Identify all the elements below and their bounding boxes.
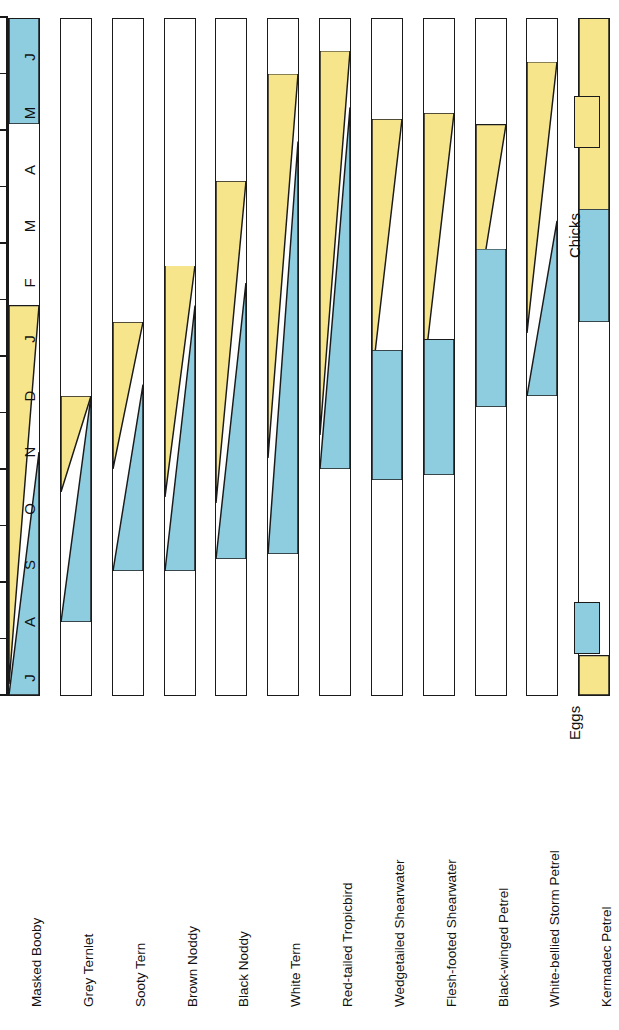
species-label: Brown Noddy — [185, 926, 200, 1007]
month-tick — [0, 638, 8, 640]
month-tick — [0, 299, 8, 301]
month-tick — [0, 16, 8, 18]
eggs-segment — [320, 107, 350, 469]
species-label: Flesh-footed Shearwater — [444, 859, 459, 1007]
plot — [0, 18, 560, 730]
species-bar — [371, 18, 403, 696]
month-tick — [0, 525, 8, 527]
chart-canvas: JASONDJFMAMJ Masked BoobyGrey TernletSoo… — [0, 0, 619, 1030]
species-bar — [60, 18, 92, 696]
month-label: J — [22, 670, 38, 686]
legend-label-eggs: Eggs — [566, 706, 583, 740]
chicks-segment — [424, 113, 454, 373]
eggs-segment — [476, 249, 506, 407]
species-label: Black Noddy — [236, 931, 251, 1007]
rotated-plot-area — [0, 18, 560, 730]
eggs-segment — [268, 141, 298, 553]
month-label: M — [22, 218, 38, 234]
month-label: S — [22, 557, 38, 573]
eggs-segment — [579, 209, 609, 322]
month-label: M — [22, 105, 38, 121]
month-label: F — [22, 275, 38, 291]
species-label: Sooty Tern — [133, 943, 148, 1007]
eggs-segment — [527, 220, 557, 395]
eggs-segment — [113, 384, 143, 570]
eggs-segment — [424, 339, 454, 475]
species-bar — [423, 18, 455, 696]
month-tick — [0, 242, 8, 244]
species-bar — [475, 18, 507, 696]
month-tick — [0, 468, 8, 470]
species-label: Kermadec Petrel — [599, 906, 614, 1007]
month-label: N — [22, 444, 38, 460]
species-bar — [267, 18, 299, 696]
month-tick — [0, 186, 8, 188]
species-bar — [578, 18, 610, 696]
eggs-segment — [61, 396, 91, 622]
month-tick — [0, 73, 8, 75]
month-tick — [0, 129, 8, 131]
species-label: Wedgetailed Shearwater — [392, 859, 407, 1007]
month-tick — [0, 694, 8, 696]
eggs-segment — [216, 283, 246, 560]
species-label: White Tern — [288, 943, 303, 1007]
month-label: A — [22, 614, 38, 630]
month-label: O — [22, 501, 38, 517]
eggs-segment — [372, 350, 402, 480]
month-tick — [0, 581, 8, 583]
chicks-segment — [579, 655, 609, 695]
month-label: J — [22, 331, 38, 347]
chicks-segment — [372, 119, 402, 379]
eggs-segment — [9, 452, 39, 695]
species-label: White-bellied Storm Petrel — [547, 850, 562, 1007]
month-label: A — [22, 162, 38, 178]
month-tick — [0, 355, 8, 357]
species-label: Red-tailed Tropicbird — [340, 882, 355, 1007]
species-bar — [215, 18, 247, 696]
species-label: Grey Ternlet — [81, 934, 96, 1007]
species-label: Masked Booby — [29, 918, 44, 1007]
month-label: D — [22, 388, 38, 404]
species-bar — [526, 18, 558, 696]
month-tick — [0, 412, 8, 414]
month-label: J — [22, 49, 38, 65]
species-bar — [319, 18, 351, 696]
species-bar — [164, 18, 196, 696]
eggs-segment — [165, 305, 195, 571]
species-bar — [112, 18, 144, 696]
species-label: Black-winged Petrel — [496, 888, 511, 1007]
